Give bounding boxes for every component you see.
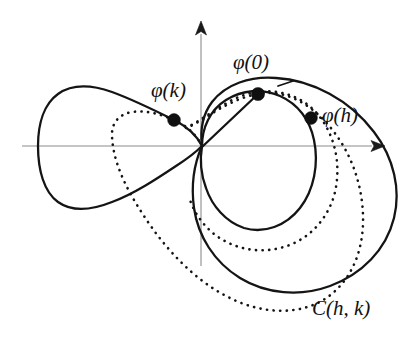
point-phi-h-dot[interactable] <box>305 112 318 125</box>
axes-group <box>22 21 385 266</box>
point-phi-k-dot[interactable] <box>168 114 181 127</box>
y-axis-arrowhead <box>196 21 207 35</box>
inner-right-lobe-path <box>201 91 316 230</box>
diagram-svg <box>0 0 420 346</box>
label-phi-h: φ(h) <box>322 105 358 126</box>
outer-solid-loop <box>193 78 397 293</box>
tangent-tick-path <box>278 81 293 86</box>
chord-origin-to-phi0 <box>202 94 258 147</box>
figure-eight-left-lobe <box>38 87 202 209</box>
point-phi-0-dot[interactable] <box>251 87 264 100</box>
label-phi-k: φ(k) <box>151 80 186 101</box>
figure-eight-left-lobe-path <box>38 87 202 209</box>
label-curve-c-hk: C(h, k) <box>312 298 370 319</box>
tangent-tick-top <box>278 81 293 86</box>
inner-right-lobe <box>201 91 316 230</box>
outer-solid-loop-path <box>193 78 397 293</box>
figure-canvas: φ(k) φ(0) φ(h) C(h, k) <box>0 0 420 346</box>
chord-origin-phi0-path <box>202 94 258 147</box>
label-phi-0: φ(0) <box>233 52 269 73</box>
